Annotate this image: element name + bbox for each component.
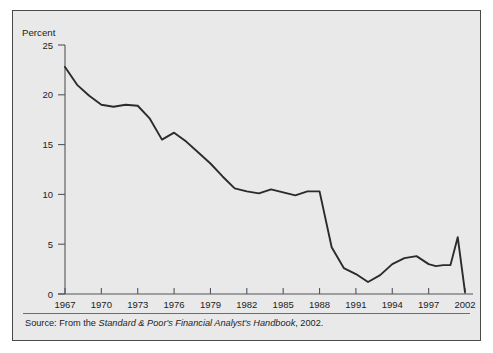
y-axis-tick-labels: 0510152025 <box>42 40 53 300</box>
y-tick-label: 25 <box>42 40 53 51</box>
x-tick-label: 1982 <box>236 299 257 310</box>
source-title: Standard & Poor's Financial Analyst's Ha… <box>99 318 296 328</box>
x-tick-label: 1976 <box>164 299 185 310</box>
x-tick-label: 1994 <box>382 299 403 310</box>
y-axis-title: Percent <box>22 27 56 38</box>
y-tick-label: 0 <box>48 289 53 300</box>
y-axis-ticks <box>58 45 65 294</box>
y-tick-label: 10 <box>42 189 53 200</box>
source-suffix: , 2002. <box>295 318 323 328</box>
x-tick-label: 1991 <box>345 299 366 310</box>
x-tick-label: 1985 <box>273 299 294 310</box>
data-series-line <box>65 67 465 292</box>
y-tick-label: 5 <box>48 239 53 250</box>
x-tick-label: 2002 <box>454 299 475 310</box>
source-prefix: Source: From the <box>25 318 99 328</box>
line-chart-svg: Percent 0510152025 196719701973197619791… <box>13 11 480 340</box>
source-note: Source: From the Standard & Poor's Finan… <box>25 318 465 328</box>
x-tick-label: 1970 <box>91 299 112 310</box>
y-tick-label: 15 <box>42 139 53 150</box>
x-tick-label: 1973 <box>127 299 148 310</box>
y-tick-label: 20 <box>42 89 53 100</box>
x-tick-label: 1988 <box>309 299 330 310</box>
x-tick-label: 1967 <box>54 299 75 310</box>
x-axis-ticks <box>65 288 465 294</box>
figure-frame: Percent 0510152025 196719701973197619791… <box>12 10 481 341</box>
x-tick-label: 1979 <box>200 299 221 310</box>
x-tick-label: 1997 <box>418 299 439 310</box>
x-axis-tick-labels: 1967197019731976197919821985198819911994… <box>54 299 475 310</box>
chart-plot-area: Percent 0510152025 196719701973197619791… <box>13 11 480 340</box>
source-divider <box>23 313 470 314</box>
